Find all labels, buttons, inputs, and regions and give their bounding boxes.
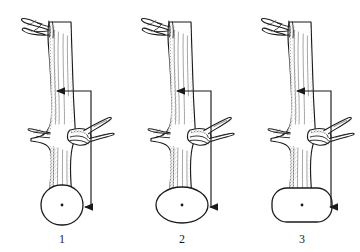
cross-section-1: [41, 185, 83, 225]
panel-2: 2: [141, 18, 234, 246]
trunk-2: [141, 18, 234, 192]
panel-caption-3: 3: [299, 232, 305, 246]
pith-dot-1: [61, 204, 64, 207]
panel-caption-2: 2: [179, 232, 185, 246]
panel-3: 3: [261, 18, 354, 246]
cross-section-3: [272, 188, 332, 222]
arrow-head-lower-1: [84, 203, 93, 211]
panel-caption-1: 1: [59, 232, 65, 246]
trunk-3: [261, 18, 354, 192]
figure-root: 1 2: [0, 0, 360, 252]
panel-1: 1: [21, 18, 114, 246]
trunk-1: [21, 18, 114, 192]
pith-dot-2: [181, 204, 184, 207]
pith-dot-3: [301, 204, 304, 207]
branch-cross-section-figure: 1 2: [0, 0, 360, 252]
arrow-head-lower-2: [209, 203, 218, 211]
cross-section-2: [156, 187, 208, 223]
